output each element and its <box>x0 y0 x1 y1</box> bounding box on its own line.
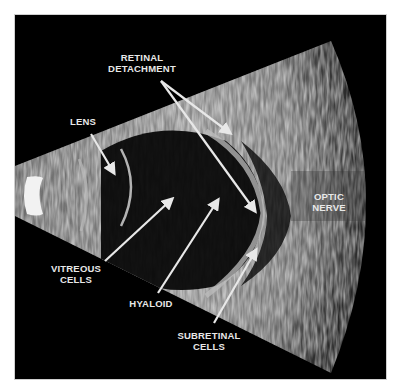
subretinal-cells-label: SUBRETINAL CELLS <box>174 330 244 352</box>
lens-label: LENS <box>66 116 100 127</box>
label-line: LENS <box>66 116 100 127</box>
label-line: CELLS <box>46 274 106 285</box>
vitreous-cells-arrow <box>105 199 172 261</box>
label-line: CELLS <box>174 341 244 352</box>
vitreous-cells-label: VITREOUS CELLS <box>46 263 106 285</box>
hyaloid-label: HYALOID <box>125 298 177 309</box>
optic-nerve-label: OPTIC NERVE <box>308 191 350 213</box>
lens-arrow <box>91 134 114 173</box>
label-line: DETACHMENT <box>106 63 178 74</box>
label-line: OPTIC <box>308 191 350 202</box>
subretinal-cells-arrow <box>214 250 256 323</box>
label-line: NERVE <box>308 202 350 213</box>
label-line: RETINAL <box>106 52 178 63</box>
label-line: HYALOID <box>125 298 177 309</box>
retinal-detachment-label: RETINAL DETACHMENT <box>106 52 178 74</box>
retinal-detachment-arrow-2 <box>161 81 255 211</box>
hyaloid-arrow <box>158 200 218 293</box>
label-line: SUBRETINAL <box>174 330 244 341</box>
label-line: VITREOUS <box>46 263 106 274</box>
retinal-detachment-arrow-1 <box>161 81 230 133</box>
